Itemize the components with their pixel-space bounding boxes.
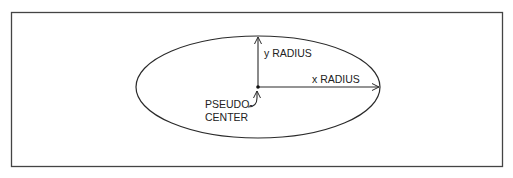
ellipse-radius-diagram: y RADIUS x RADIUS PSEUDO- CENTER: [0, 0, 513, 178]
pseudo-center-point: [256, 85, 260, 89]
pseudo-center-label-line1: PSEUDO-: [205, 98, 253, 110]
pseudo-center-label-line2: CENTER: [205, 111, 249, 123]
y-radius-label: y RADIUS: [264, 47, 312, 59]
x-radius-label: x RADIUS: [312, 73, 360, 85]
